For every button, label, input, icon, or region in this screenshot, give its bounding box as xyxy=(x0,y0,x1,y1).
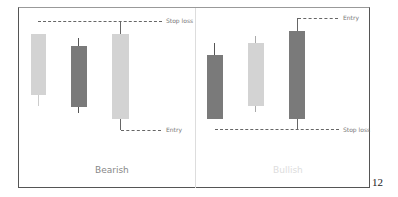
panel-divider xyxy=(195,8,196,188)
candle-3-body xyxy=(112,34,129,119)
bearish-title: Bearish xyxy=(95,165,129,175)
stop-loss-label: Stop loss xyxy=(343,127,370,133)
entry-line xyxy=(121,130,161,131)
candle-1-body xyxy=(31,34,46,95)
stop-loss-line xyxy=(38,21,162,22)
page-number: 12 xyxy=(372,176,383,188)
candle-5-body xyxy=(248,43,264,106)
candle-3-upper-wick xyxy=(120,21,121,34)
candle-6-upper-wick xyxy=(297,18,298,31)
entry-label: Entry xyxy=(343,15,359,21)
bullish-title: Bullish xyxy=(273,165,303,175)
candle-2-body xyxy=(71,46,87,107)
stop-loss-line xyxy=(215,129,339,130)
candle-4-body xyxy=(207,55,223,119)
entry-label: Entry xyxy=(166,127,182,133)
candle-6-body xyxy=(289,31,305,119)
candle-3-lower-wick xyxy=(120,119,121,130)
candle-6-lower-wick xyxy=(297,119,298,129)
entry-line xyxy=(298,18,338,19)
stop-loss-label: Stop loss xyxy=(166,18,193,24)
